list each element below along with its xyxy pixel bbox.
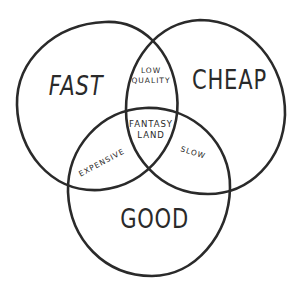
- set-label-good: GOOD: [120, 205, 178, 232]
- low-quality-line1: LOW: [126, 66, 176, 76]
- set-label-cheap: CHEAP: [192, 66, 256, 93]
- fantasy-land-line1: FANTASY: [127, 118, 176, 129]
- low-quality-line2: QUALITY: [126, 76, 176, 86]
- intersection-low-quality: LOW QUALITY: [126, 66, 176, 86]
- set-label-fast: FAST: [48, 72, 104, 99]
- fantasy-land-line2: LAND: [127, 129, 176, 140]
- intersection-fantasy-land: FANTASY LAND: [127, 118, 176, 140]
- venn-diagram: [0, 0, 300, 291]
